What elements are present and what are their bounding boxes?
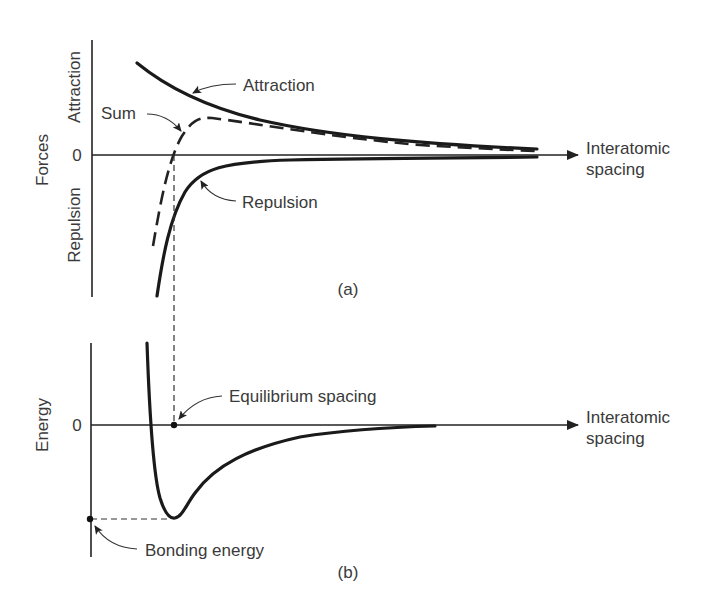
- repulsion-label: Repulsion: [242, 193, 318, 212]
- attraction-label: Attraction: [243, 76, 315, 95]
- bonding-energy-pointer: [95, 526, 137, 549]
- bonding-energy-point: [87, 516, 93, 522]
- sum-label: Sum: [101, 104, 136, 123]
- energy-curve: [147, 343, 435, 518]
- energy-zero-label: 0: [72, 416, 81, 435]
- forces-axis-title: Forces: [33, 134, 52, 186]
- forces-x-label-line1: Interatomic: [586, 139, 671, 158]
- repulsion-pointer: [201, 181, 236, 201]
- attraction-pointer: [193, 84, 236, 93]
- sum-pointer: [147, 114, 181, 131]
- forces-x-label-line2: spacing: [586, 160, 645, 179]
- bonding-energy-label: Bonding energy: [145, 541, 265, 560]
- energy-axis-title: Energy: [33, 398, 52, 452]
- force-energy-diagram: Attraction Repulsion Forces 0 Attraction…: [0, 0, 714, 607]
- equilibrium-point: [171, 422, 177, 428]
- repulsion-region-label: Repulsion: [65, 187, 84, 263]
- equilibrium-label: Equilibrium spacing: [229, 387, 376, 406]
- energy-x-label-line2: spacing: [586, 429, 645, 448]
- panel-a-forces: Attraction Repulsion Forces 0 Attraction…: [33, 40, 671, 425]
- sum-curve: [153, 118, 537, 246]
- forces-zero-label: 0: [72, 146, 81, 165]
- panel-a-caption: (a): [338, 280, 359, 299]
- equilibrium-pointer: [179, 396, 222, 419]
- repulsion-curve: [157, 157, 537, 296]
- energy-x-label-line1: Interatomic: [586, 408, 671, 427]
- panel-b-caption: (b): [338, 563, 359, 582]
- attraction-region-label: Attraction: [65, 51, 84, 123]
- panel-b-energy: Energy 0 Equilibrium spacing Bonding ene…: [33, 343, 671, 582]
